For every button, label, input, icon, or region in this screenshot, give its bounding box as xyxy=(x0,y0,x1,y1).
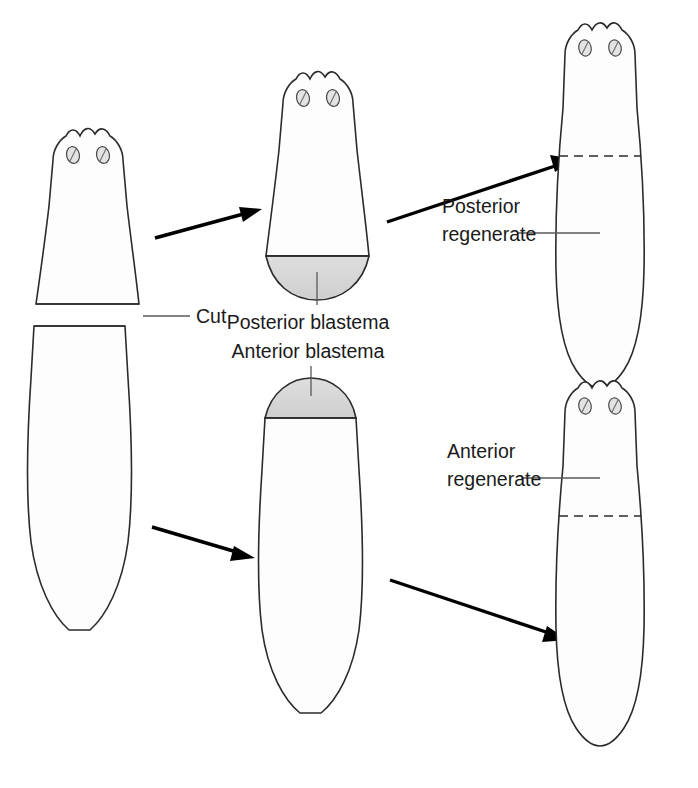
anterior-regenerate-label-line1: Anterior xyxy=(447,440,516,462)
arrow-tail-fragment-to-blastema xyxy=(152,527,255,561)
posterior-blastema-label: Posterior blastema xyxy=(227,311,390,333)
regenerated-worm-outline xyxy=(556,23,644,388)
worm-head-fragment-stage2 xyxy=(266,72,369,300)
posterior-regenerate-label-line1: Posterior xyxy=(442,195,521,217)
tail-fragment-body-outline xyxy=(28,326,132,630)
anterior-regenerate-label-line2: regenerate xyxy=(447,468,541,490)
planarian-regeneration-illustration: Cut Posterior blastema Anterior blastema… xyxy=(0,0,698,788)
arrow-tail-blastema-to-regenerate xyxy=(390,580,568,642)
worm-regenerated-from-head-fragment xyxy=(540,23,660,405)
tail-fragment-stage2-body-outline xyxy=(259,418,363,713)
regeneration-diagram: Cut Posterior blastema Anterior blastema… xyxy=(0,0,698,788)
anterior-blastema-label: Anterior blastema xyxy=(232,340,385,362)
regenerated-worm-outline xyxy=(556,381,644,746)
worm-regenerated-from-tail-fragment xyxy=(540,370,660,746)
cut-label: Cut xyxy=(196,305,227,327)
worm-tail-fragment-stage1 xyxy=(28,326,132,630)
worm-tail-fragment-stage2 xyxy=(259,378,363,713)
arrow-head-fragment-to-blastema xyxy=(155,207,262,238)
worm-head-fragment-stage1 xyxy=(36,129,139,304)
posterior-regenerate-label-line2: regenerate xyxy=(442,223,536,245)
head-fragment-stage2-body-outline xyxy=(266,72,369,256)
head-fragment-body-outline xyxy=(36,129,139,304)
